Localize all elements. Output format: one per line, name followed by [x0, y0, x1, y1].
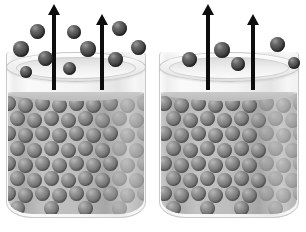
liquid-sphere — [161, 156, 172, 171]
evaporation-diagram — [0, 0, 306, 232]
escaping-sphere — [108, 52, 123, 67]
escaping-sphere — [20, 66, 32, 78]
liquid-sphere — [8, 96, 16, 111]
evaporation-arrow — [247, 14, 259, 90]
arrow-shaft — [206, 13, 210, 90]
liquid-sphere — [8, 126, 16, 141]
liquid-sphere — [69, 156, 84, 171]
liquid-sphere — [8, 156, 16, 171]
liquid-sphere — [103, 186, 118, 201]
liquid-sphere — [161, 186, 172, 201]
escaping-sphere — [214, 42, 230, 58]
liquid-sphere — [103, 156, 118, 171]
liquid-sphere — [112, 141, 127, 156]
liquid-sphere — [69, 186, 84, 201]
liquid-sphere — [293, 126, 297, 141]
liquid-sphere — [44, 111, 59, 126]
escaping-sphere — [112, 21, 127, 36]
liquid-sphere — [10, 171, 25, 186]
arrow-head-icon — [48, 4, 60, 15]
liquid-sphere — [112, 111, 127, 126]
arrow-head-icon — [202, 4, 214, 15]
liquid-sphere — [293, 186, 297, 201]
liquid-sphere — [10, 111, 25, 126]
liquid-sphere — [285, 173, 298, 188]
escaping-sphere — [131, 40, 146, 55]
arrow-shaft — [52, 13, 56, 90]
liquid-sphere — [268, 141, 283, 156]
evaporation-arrow — [96, 14, 108, 90]
liquid-sphere — [259, 156, 274, 171]
liquid-sphere — [191, 126, 206, 141]
escaping-sphere — [13, 41, 29, 57]
liquid-sphere — [268, 171, 283, 186]
liquid-sphere — [191, 156, 206, 171]
escaping-sphere — [182, 52, 197, 67]
evaporation-arrow — [202, 4, 214, 90]
arrow-shaft — [100, 23, 104, 90]
liquid-sphere — [112, 171, 127, 186]
liquid-sphere — [44, 171, 59, 186]
liquid-sphere — [200, 111, 215, 126]
liquid-volume — [8, 92, 144, 214]
liquid-sphere — [285, 143, 298, 158]
liquid-sphere — [161, 126, 172, 141]
liquid-sphere — [234, 111, 249, 126]
liquid-sphere — [191, 186, 206, 201]
liquid-sphere — [137, 96, 144, 111]
liquid-sphere — [293, 96, 297, 111]
liquid-sphere — [200, 141, 215, 156]
liquid-sphere — [166, 141, 181, 156]
liquid-sphere — [137, 186, 144, 201]
escaping-sphere — [63, 62, 76, 75]
escaping-sphere — [67, 25, 81, 39]
liquid-sphere — [285, 113, 298, 128]
evaporation-arrow — [48, 4, 60, 90]
liquid-sphere — [69, 126, 84, 141]
liquid-sphere — [200, 171, 215, 186]
liquid-sphere — [78, 141, 93, 156]
liquid-sphere — [234, 141, 249, 156]
arrow-head-icon — [96, 14, 108, 25]
liquid-sphere — [35, 156, 50, 171]
liquid-sphere — [103, 126, 118, 141]
liquid-sphere — [234, 201, 249, 214]
liquid-sphere — [8, 186, 16, 201]
liquid-sphere — [166, 111, 181, 126]
liquid-sphere — [44, 141, 59, 156]
escaping-sphere — [30, 24, 45, 39]
escaping-sphere — [38, 51, 53, 66]
liquid-sphere — [166, 171, 181, 186]
liquid-volume — [161, 92, 297, 214]
liquid-sphere — [137, 156, 144, 171]
liquid-sphere — [78, 201, 93, 214]
liquid-sphere — [35, 186, 50, 201]
liquid-sphere — [234, 171, 249, 186]
liquid-sphere — [161, 96, 172, 111]
liquid-sphere — [35, 126, 50, 141]
liquid-sphere — [78, 171, 93, 186]
liquid-sphere — [259, 126, 274, 141]
liquid-sphere — [225, 186, 240, 201]
liquid-sphere — [166, 201, 181, 214]
liquid-sphere — [10, 141, 25, 156]
arrow-head-icon — [247, 14, 259, 25]
liquid-sphere — [137, 126, 144, 141]
liquid-sphere — [44, 201, 59, 214]
liquid-sphere — [259, 186, 274, 201]
escaping-sphere — [80, 41, 96, 57]
liquid-sphere — [268, 111, 283, 126]
escaping-sphere — [270, 37, 285, 52]
liquid-sphere — [200, 201, 215, 214]
liquid-sphere — [293, 156, 297, 171]
liquid-sphere — [10, 201, 25, 214]
arrow-shaft — [251, 23, 255, 90]
escaping-sphere — [288, 57, 300, 69]
liquid-sphere — [268, 201, 283, 214]
liquid-sphere — [225, 126, 240, 141]
liquid-sphere — [225, 156, 240, 171]
liquid-sphere — [112, 201, 127, 214]
liquid-sphere — [78, 111, 93, 126]
escaping-sphere — [231, 57, 245, 71]
